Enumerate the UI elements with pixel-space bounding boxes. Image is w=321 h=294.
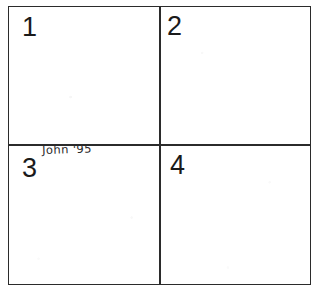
panel-number-1: 1 bbox=[22, 14, 37, 41]
handwritten-signature: John '95 bbox=[42, 144, 92, 157]
panel-number-2: 2 bbox=[167, 13, 182, 40]
panel-number-4: 4 bbox=[170, 152, 185, 179]
scanned-page: 1 2 3 4 John '95 bbox=[0, 0, 321, 294]
panel-number-3: 3 bbox=[22, 155, 37, 182]
panel-2[interactable] bbox=[161, 7, 311, 144]
